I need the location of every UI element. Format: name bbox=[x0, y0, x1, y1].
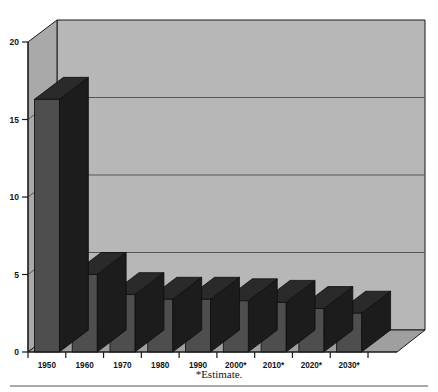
y-tick-label-0: 0 bbox=[14, 347, 19, 357]
bar-front-face bbox=[34, 99, 59, 352]
bar-chart-3d: 05101520 195019601970198019902000*2010*2… bbox=[0, 0, 438, 392]
x-axis-ticks bbox=[28, 352, 368, 358]
y-tick-label-5: 5 bbox=[14, 270, 19, 280]
x-tick-label-2010-est: 2010* bbox=[263, 361, 285, 370]
y-tick-label-10: 10 bbox=[10, 192, 20, 202]
x-tick-label-1950: 1950 bbox=[38, 361, 57, 370]
x-tick-label-2030-est: 2030* bbox=[338, 361, 360, 370]
y-tick-label-20: 20 bbox=[10, 37, 20, 47]
x-tick-label-1970: 1970 bbox=[113, 361, 132, 370]
x-tick-label-1980: 1980 bbox=[151, 361, 170, 370]
x-tick-label-2020-est: 2020* bbox=[301, 361, 323, 370]
bar-1950 bbox=[34, 77, 88, 352]
chart-figure: 05101520 195019601970198019902000*2010*2… bbox=[0, 0, 438, 392]
bar-side-face bbox=[59, 77, 88, 352]
x-tick-label-1960: 1960 bbox=[76, 361, 95, 370]
y-tick-label-15: 15 bbox=[10, 115, 20, 125]
footnote-estimate: *Estimate. bbox=[196, 368, 243, 380]
y-axis-ticks: 05101520 bbox=[10, 37, 28, 357]
